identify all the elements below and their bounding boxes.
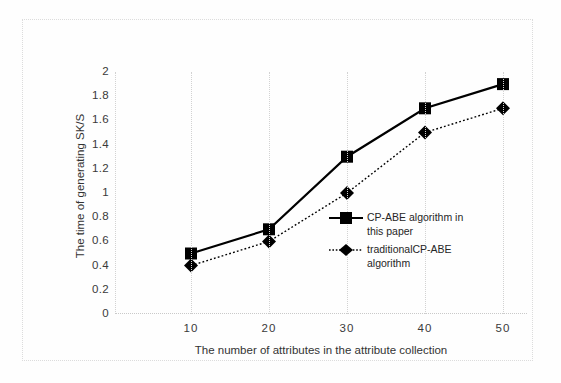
x-axis-title: The number of attributes in the attribut… [115, 344, 527, 356]
y-tick-label-0: 0 [79, 308, 109, 320]
legend-label-series-1-line2: this paper [367, 225, 413, 237]
plot-area [115, 72, 527, 314]
legend-entry-series-2: traditionalCP-ABE algorithm [329, 242, 509, 270]
x-tick-label-40: 40 [405, 322, 445, 334]
x-axis-line [115, 313, 527, 314]
gridline-x-20 [269, 72, 270, 314]
x-tick-label-50: 50 [483, 322, 523, 334]
chart-screenshot: 21.81.61.41.210.80.60.40.20 1020304050 T… [0, 0, 561, 383]
legend-entry-series-1: CP-ABE algorithm in this paper [329, 210, 509, 238]
chart-legend: CP-ABE algorithm in this paper tradition… [329, 210, 509, 274]
x-axis-tick-labels: 1020304050 [115, 322, 527, 338]
gridline-x-40 [425, 72, 426, 314]
gridline-x-10 [191, 72, 192, 314]
figure-frame: 21.81.61.41.210.80.60.40.20 1020304050 T… [22, 19, 533, 361]
x-tick-label-20: 20 [249, 322, 289, 334]
legend-label-series-2: traditionalCP-ABE algorithm [367, 242, 499, 270]
x-tick-label-10: 10 [171, 322, 211, 334]
gridline-x-50 [503, 72, 504, 314]
gridline-x-30 [347, 72, 348, 314]
legend-key-diamond-dotted-icon [329, 244, 363, 256]
legend-label-series-2-line2: algorithm [367, 257, 410, 269]
series-plot [115, 72, 527, 314]
legend-label-series-1: CP-ABE algorithm in this paper [367, 210, 499, 238]
y-axis-line [115, 72, 116, 314]
y-axis-title: The time of generating SK/S [74, 65, 86, 307]
x-tick-label-30: 30 [327, 322, 367, 334]
legend-key-square-solid-icon [329, 212, 363, 224]
legend-label-series-2-line1: traditionalCP-ABE [367, 243, 452, 255]
legend-label-series-1-line1: CP-ABE algorithm in [367, 211, 463, 223]
